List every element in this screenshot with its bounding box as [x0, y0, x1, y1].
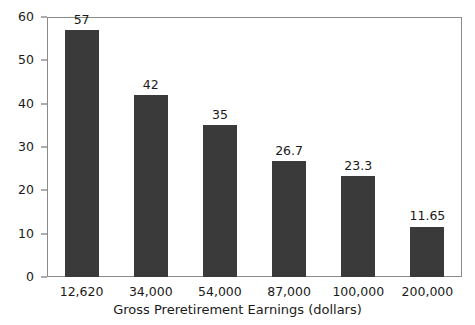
bar-rect: [65, 30, 99, 277]
y-axis-tick-label: 0: [26, 271, 34, 284]
bar-value-label: 26.7: [275, 145, 303, 158]
y-axis: 0102030405060: [0, 0, 47, 325]
y-axis-tick-label: 60: [18, 11, 34, 24]
bar-item: 26.7: [272, 17, 306, 277]
bar-rect: [203, 125, 237, 277]
x-axis: 12,62034,00054,00087,000100,000200,000: [47, 277, 462, 325]
bar-rect: [272, 161, 306, 277]
bar-value-label: 11.65: [410, 210, 446, 223]
y-axis-tick-label: 40: [18, 97, 34, 110]
bar-value-label: 57: [74, 14, 90, 27]
x-axis-title: Gross Preretirement Earnings (dollars): [0, 303, 475, 316]
x-axis-tick-label: 200,000: [402, 286, 454, 299]
bar-rect: [410, 227, 444, 277]
bar-item: 42: [134, 17, 168, 277]
bar-item: 11.65: [410, 17, 444, 277]
x-axis-tick-label: 12,620: [60, 286, 104, 299]
bar-item: 35: [203, 17, 237, 277]
bar-value-label: 23.3: [344, 160, 372, 173]
y-axis-tick-label: 50: [18, 54, 34, 67]
bar-item: 57: [65, 17, 99, 277]
bar-chart: 0102030405060 57423526.723.311.65 12,620…: [0, 0, 475, 325]
x-axis-tick-label: 100,000: [332, 286, 384, 299]
y-axis-tick-label: 20: [18, 184, 34, 197]
bar-rect: [341, 176, 375, 277]
bar-item: 23.3: [341, 17, 375, 277]
bar-rect: [134, 95, 168, 277]
bar-value-label: 35: [212, 109, 228, 122]
x-axis-tick-label: 87,000: [267, 286, 311, 299]
bar-value-label: 42: [143, 79, 159, 92]
bars-layer: 57423526.723.311.65: [47, 17, 462, 277]
x-axis-tick-label: 54,000: [198, 286, 242, 299]
y-axis-tick-label: 10: [18, 227, 34, 240]
y-axis-tick-label: 30: [18, 141, 34, 154]
x-axis-tick-label: 34,000: [129, 286, 173, 299]
